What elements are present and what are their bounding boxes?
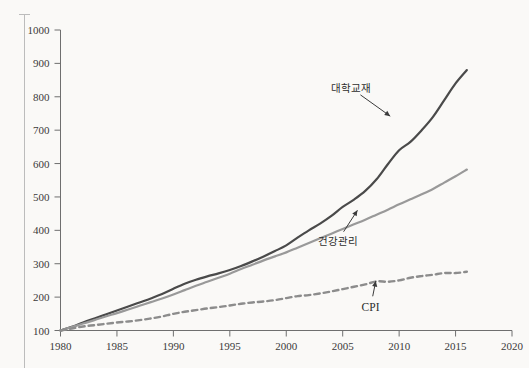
y-tick-label: 400 [33,224,50,236]
y-tick-label: 800 [33,91,50,103]
series-label-1: 대학교재 [331,82,371,94]
y-tick-label: 200 [33,291,50,303]
x-tick-label: 2020 [501,340,524,352]
x-tick-label: 2000 [275,340,298,352]
y-tick-label: 600 [33,158,50,170]
y-tick-label: 1000 [28,24,51,36]
line-chart: 1002003004005006007008009001000 19801985… [0,0,529,368]
series-label-3: CPI [362,301,380,313]
x-tick-label: 1990 [162,340,185,352]
x-tick-label: 1980 [50,340,73,352]
x-tick-label: 2010 [388,340,411,352]
x-axis-tick-labels: 198019851990199520002005201020152020 [50,340,524,352]
x-tick-label: 2015 [445,340,468,352]
x-tick-label: 1995 [219,340,242,352]
y-tick-label: 100 [33,325,50,337]
x-tick-label: 2005 [332,340,355,352]
series-label-2: 건강관리 [318,235,358,247]
x-tick-label: 1985 [106,340,129,352]
chart-figure: 1002003004005006007008009001000 19801985… [0,0,529,368]
chart-background [0,0,529,368]
y-tick-label: 300 [33,258,50,270]
y-tick-label: 700 [33,124,50,136]
y-tick-label: 500 [33,191,50,203]
y-tick-label: 900 [33,57,50,69]
